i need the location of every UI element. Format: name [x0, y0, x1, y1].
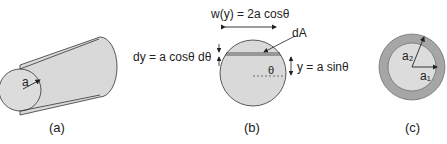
- area-label: dA: [292, 27, 307, 39]
- caption-a: (a): [49, 121, 65, 134]
- figure-canvas: [0, 0, 447, 144]
- inner-radius-label: a₁: [420, 70, 431, 82]
- outer-radius-label: a₂: [402, 50, 413, 62]
- cylinder-diagram: [0, 37, 117, 115]
- cylinder-end-face: [0, 69, 41, 111]
- width-label: w(y) = 2a cosθ: [211, 8, 289, 20]
- radius-label-a: a: [22, 76, 29, 88]
- y-label: y = a sinθ: [297, 61, 349, 73]
- caption-b: (b): [244, 121, 260, 134]
- annulus-diagram: [379, 34, 445, 100]
- caption-c: (c): [405, 121, 420, 134]
- angle-label: θ: [268, 65, 274, 76]
- dy-label: dy = a cosθ dθ: [133, 51, 211, 63]
- circle-cross-section: [219, 27, 295, 106]
